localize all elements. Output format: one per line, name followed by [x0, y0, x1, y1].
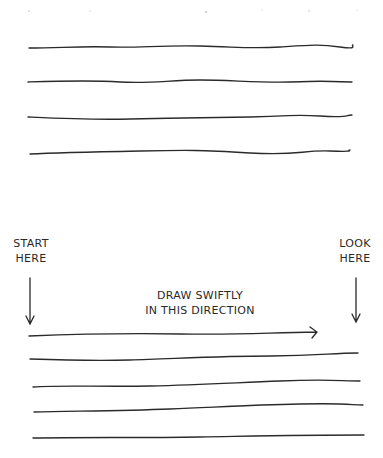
look-label-line1: LOOK — [335, 236, 375, 251]
practice-line-2 — [33, 380, 360, 387]
start-label-line2: HERE — [12, 251, 50, 266]
practice-line-3 — [34, 404, 363, 412]
instruction-line2: IN THIS DIRECTION — [110, 303, 290, 318]
start-here-label: START HERE — [12, 236, 50, 266]
start-label-line1: START — [12, 236, 50, 251]
drawing-canvas — [0, 0, 383, 458]
practice-line-1 — [30, 353, 358, 360]
example-line-3 — [28, 115, 352, 119]
look-label-line2: HERE — [335, 251, 375, 266]
example-line-2 — [28, 80, 352, 83]
instruction-line1: DRAW SWIFTLY — [110, 288, 290, 303]
start-arrow-icon — [26, 278, 34, 324]
direction-arrow-icon — [29, 327, 317, 338]
look-arrow-icon — [352, 278, 360, 322]
example-line-1 — [29, 45, 353, 48]
practice-line-4 — [33, 435, 364, 438]
example-line-4 — [30, 150, 350, 154]
look-here-label: LOOK HERE — [335, 236, 375, 266]
instruction-label: DRAW SWIFTLY IN THIS DIRECTION — [110, 288, 290, 318]
